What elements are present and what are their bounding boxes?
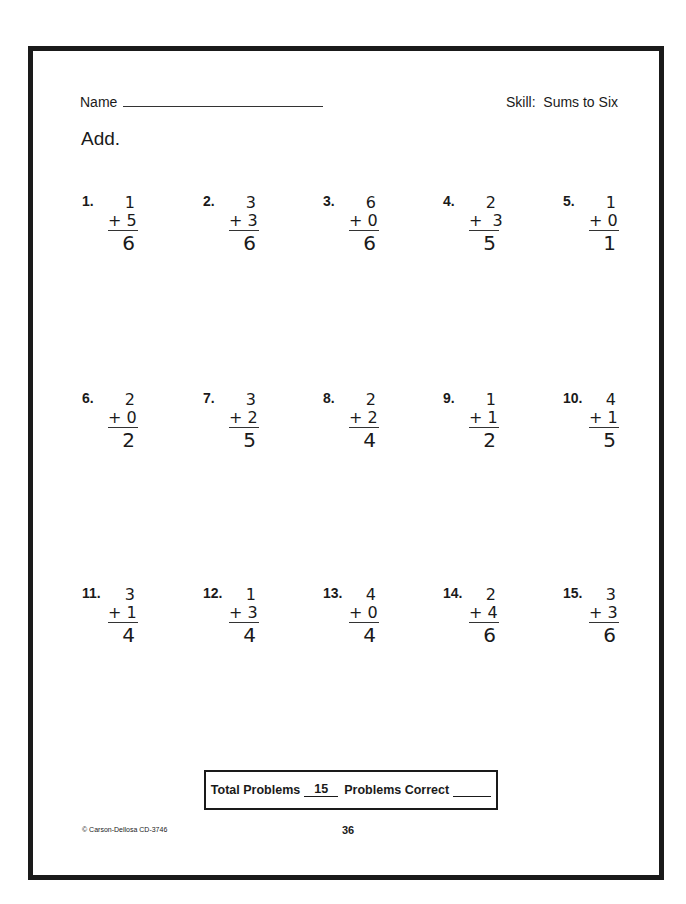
problem-3: 3. 6 + 0 6 xyxy=(323,193,433,273)
problem-number: 11. xyxy=(82,585,101,601)
sum: 4 xyxy=(108,623,138,647)
problem-7: 7. 3 + 2 5 xyxy=(203,390,313,470)
top-addend: 1 xyxy=(229,586,259,604)
problem-15: 15. 3 + 3 6 xyxy=(563,585,673,665)
problem-number: 2. xyxy=(203,193,215,209)
total-problems-label: Total Problems xyxy=(211,783,300,797)
bottom-addend: + 0 xyxy=(349,604,379,623)
top-addend: 4 xyxy=(589,391,619,409)
skill-label: Skill: Sums to Six xyxy=(506,94,618,110)
page-number: 36 xyxy=(342,824,354,836)
bottom-addend: + 2 xyxy=(229,409,259,428)
sum: 2 xyxy=(469,428,499,452)
problem-9: 9. 1 + 1 2 xyxy=(443,390,553,470)
score-box: Total Problems 15 Problems Correct xyxy=(204,770,498,810)
problem-number: 10. xyxy=(563,390,582,406)
top-addend: 2 xyxy=(108,391,138,409)
top-addend: 2 xyxy=(469,194,499,212)
problem-11: 11. 3 + 1 4 xyxy=(82,585,192,665)
sum: 5 xyxy=(229,428,259,452)
bottom-addend: + 1 xyxy=(469,409,499,428)
bottom-addend: + 4 xyxy=(469,604,499,623)
top-addend: 1 xyxy=(469,391,499,409)
problem-number: 1. xyxy=(82,193,94,209)
top-addend: 1 xyxy=(108,194,138,212)
bottom-addend: + 0 xyxy=(349,212,379,231)
problem-5: 5. 1 + 0 1 xyxy=(563,193,673,273)
problem-6: 6. 2 + 0 2 xyxy=(82,390,192,470)
sum: 5 xyxy=(469,231,499,255)
problem-10: 10. 4 + 1 5 xyxy=(563,390,673,470)
bottom-addend: + 5 xyxy=(108,212,138,231)
problem-1: 1. 1 + 5 6 xyxy=(82,193,192,273)
problem-number: 8. xyxy=(323,390,335,406)
problem-4: 4. 2 + 3 5 xyxy=(443,193,553,273)
top-addend: 1 xyxy=(589,194,619,212)
problem-number: 7. xyxy=(203,390,215,406)
top-addend: 6 xyxy=(349,194,379,212)
bottom-addend: + 0 xyxy=(108,409,138,428)
problem-number: 6. xyxy=(82,390,94,406)
problems-correct-blank[interactable] xyxy=(453,784,491,797)
bottom-addend: + 3 xyxy=(229,604,259,623)
bottom-addend: + 1 xyxy=(589,409,619,428)
top-addend: 3 xyxy=(229,391,259,409)
name-field: Name xyxy=(80,94,323,110)
top-addend: 2 xyxy=(469,586,499,604)
sum: 6 xyxy=(469,623,499,647)
total-problems-value: 15 xyxy=(304,783,338,797)
sum: 6 xyxy=(589,623,619,647)
sum: 6 xyxy=(229,231,259,255)
problem-14: 14. 2 + 4 6 xyxy=(443,585,553,665)
problems-correct-label: Problems Correct xyxy=(344,783,449,797)
problem-8: 8. 2 + 2 4 xyxy=(323,390,433,470)
problem-number: 12. xyxy=(203,585,222,601)
sum: 2 xyxy=(108,428,138,452)
problem-number: 5. xyxy=(563,193,575,209)
problem-number: 3. xyxy=(323,193,335,209)
copyright-notice: © Carson-Dellosa CD-3746 xyxy=(82,826,167,833)
problem-number: 4. xyxy=(443,193,455,209)
problem-number: 15. xyxy=(563,585,582,601)
name-blank-line[interactable] xyxy=(123,94,323,107)
bottom-addend: + 0 xyxy=(589,212,619,231)
problem-13: 13. 4 + 0 4 xyxy=(323,585,433,665)
sum: 4 xyxy=(349,623,379,647)
bottom-addend: + 3 xyxy=(469,212,499,231)
bottom-addend: + 2 xyxy=(349,409,379,428)
bottom-addend: + 3 xyxy=(229,212,259,231)
sum: 4 xyxy=(349,428,379,452)
bottom-addend: + 1 xyxy=(108,604,138,623)
sum: 6 xyxy=(349,231,379,255)
top-addend: 3 xyxy=(108,586,138,604)
sum: 4 xyxy=(229,623,259,647)
top-addend: 2 xyxy=(349,391,379,409)
problem-number: 9. xyxy=(443,390,455,406)
sum: 5 xyxy=(589,428,619,452)
sum: 6 xyxy=(108,231,138,255)
top-addend: 4 xyxy=(349,586,379,604)
problem-number: 14. xyxy=(443,585,462,601)
top-addend: 3 xyxy=(229,194,259,212)
problem-2: 2. 3 + 3 6 xyxy=(203,193,313,273)
sum: 1 xyxy=(589,231,619,255)
instructions: Add. xyxy=(81,128,120,150)
bottom-addend: + 3 xyxy=(589,604,619,623)
top-addend: 3 xyxy=(589,586,619,604)
problem-number: 13. xyxy=(323,585,342,601)
problem-12: 12. 1 + 3 4 xyxy=(203,585,313,665)
name-label: Name xyxy=(80,94,117,110)
